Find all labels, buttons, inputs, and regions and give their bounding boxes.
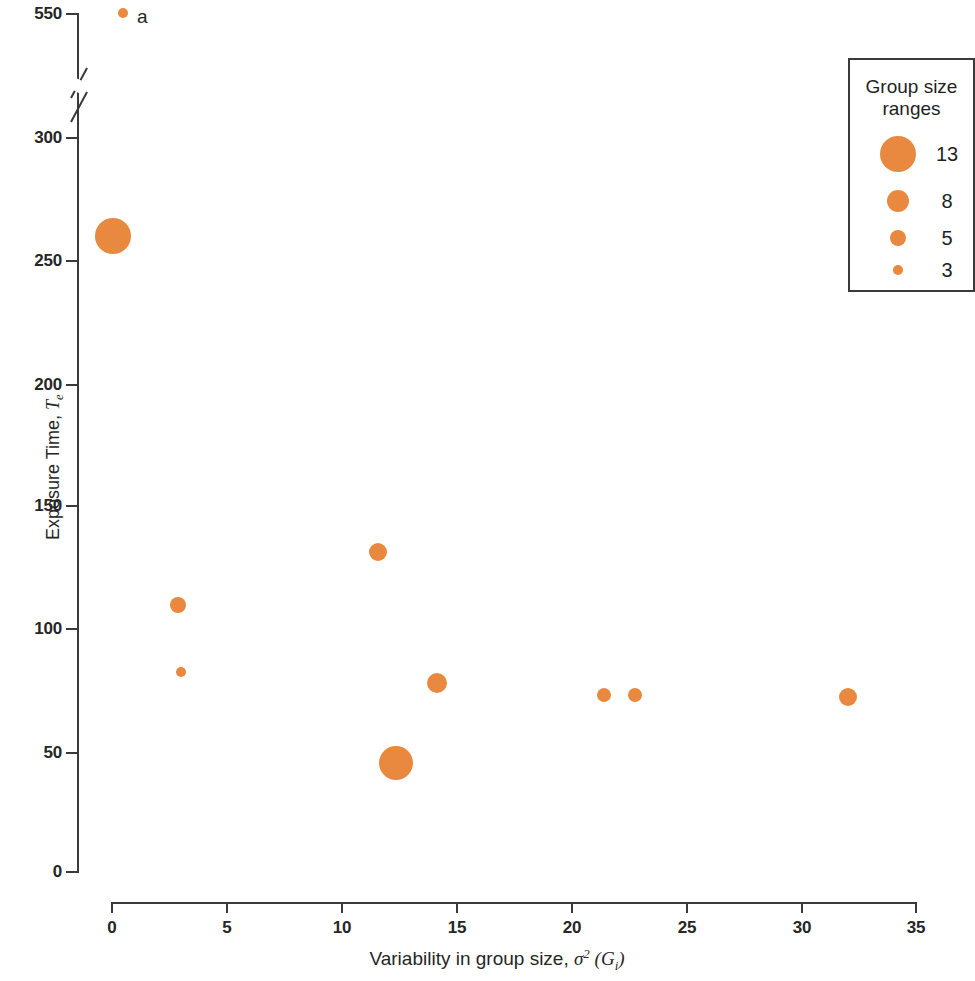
x-tick-mark-0 — [111, 902, 113, 913]
x-tick-mark-25 — [686, 902, 688, 913]
x-tick-label-35: 35 — [907, 918, 926, 938]
legend-bubble-8 — [887, 190, 909, 212]
y-tick-label-100: 100 — [10, 619, 62, 639]
x-axis-group-letter: G — [601, 948, 615, 969]
legend-bubble-3 — [893, 265, 903, 275]
bubble-chart-figure: 550 300 250 200 150 100 50 0 0 5 10 15 2… — [0, 0, 975, 981]
data-point[interactable] — [176, 667, 186, 677]
y-axis-var-subscript: e — [52, 395, 66, 400]
y-tick-mark-300 — [66, 137, 78, 139]
y-axis-title: Exposure Time, Te — [43, 317, 68, 617]
x-tick-label-30: 30 — [793, 918, 812, 938]
y-tick-mark-50 — [66, 752, 78, 754]
x-axis-title: Variability in group size, σ2 (Gi) — [78, 946, 916, 974]
y-tick-label-300: 300 — [10, 128, 62, 148]
x-axis-sigma-letter: σ — [574, 948, 583, 969]
legend-value-3: 3 — [941, 259, 952, 282]
x-tick-label-20: 20 — [563, 918, 582, 938]
x-axis-group-open: ( — [590, 948, 601, 969]
y-tick-mark-150 — [66, 505, 78, 507]
data-point[interactable] — [170, 597, 186, 613]
data-point[interactable] — [379, 746, 413, 780]
x-tick-label-15: 15 — [448, 918, 467, 938]
data-point[interactable] — [95, 218, 131, 254]
x-tick-mark-20 — [571, 902, 573, 913]
y-tick-label-550: 550 — [10, 4, 62, 24]
point-annotation-a: a — [137, 6, 148, 28]
y-tick-mark-0 — [66, 871, 78, 873]
x-tick-mark-35 — [915, 902, 917, 913]
y-tick-mark-250 — [66, 260, 78, 262]
legend-value-5: 5 — [941, 227, 952, 250]
x-axis-group-close: ) — [618, 948, 624, 969]
y-axis-title-var: Te — [43, 395, 63, 410]
y-axis-title-text: Exposure Time, — [43, 410, 63, 540]
legend: Group size ranges 13 8 5 3 — [848, 58, 975, 292]
x-axis-line — [111, 902, 917, 904]
x-tick-label-0: 0 — [107, 918, 116, 938]
data-point[interactable] — [427, 673, 447, 693]
x-tick-mark-30 — [801, 902, 803, 913]
x-axis-sigma: σ2 — [574, 948, 590, 969]
legend-bubble-5 — [890, 230, 906, 246]
legend-bubble-13 — [880, 136, 916, 172]
x-axis-title-text: Variability in group size, — [369, 948, 574, 969]
data-point[interactable] — [597, 688, 611, 702]
legend-title-line2: ranges — [850, 98, 973, 120]
x-tick-mark-15 — [456, 902, 458, 913]
y-tick-label-50: 50 — [10, 743, 62, 763]
legend-value-13: 13 — [936, 143, 958, 166]
legend-value-8: 8 — [941, 190, 952, 213]
data-point[interactable] — [839, 688, 857, 706]
x-tick-mark-5 — [226, 902, 228, 913]
x-tick-label-10: 10 — [333, 918, 352, 938]
data-point[interactable] — [628, 688, 642, 702]
x-tick-label-25: 25 — [678, 918, 697, 938]
y-tick-mark-200 — [66, 384, 78, 386]
legend-title-line1: Group size — [850, 76, 973, 98]
y-axis-var-letter: T — [43, 400, 63, 410]
data-point[interactable] — [369, 543, 387, 561]
legend-title: Group size ranges — [850, 76, 973, 120]
y-tick-mark-550 — [66, 13, 78, 15]
data-point[interactable] — [118, 8, 128, 18]
y-tick-label-0: 0 — [10, 862, 62, 882]
y-tick-label-250: 250 — [10, 251, 62, 271]
y-axis-line — [77, 13, 79, 873]
x-tick-label-5: 5 — [222, 918, 231, 938]
x-tick-mark-10 — [341, 902, 343, 913]
x-axis-group-var: Gi — [601, 948, 618, 969]
y-tick-mark-100 — [66, 628, 78, 630]
